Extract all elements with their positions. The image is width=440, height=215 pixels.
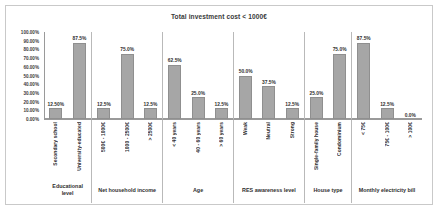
category-slot: > 60 years [210, 120, 233, 177]
bar-slot: 12.5% [92, 32, 115, 119]
bar-value-label: 12.5% [97, 102, 111, 107]
category-slot: 1000 - 2500€ [116, 120, 139, 177]
bar-value-label: 12.5% [214, 102, 228, 107]
bar[interactable] [239, 76, 252, 120]
category-slot: Condominium [328, 120, 351, 177]
chart-title: Total investment cost < 1000€ [6, 13, 432, 20]
group-name-label: Age [193, 187, 203, 194]
bar-slot: 12.5% [375, 32, 398, 119]
bar-slot: 87.5% [352, 32, 375, 119]
bar-value-label: 37.5% [262, 80, 276, 85]
bar-value-label: 87.5% [73, 36, 87, 41]
bar[interactable] [357, 43, 370, 119]
bar-value-label: 12.5% [285, 102, 299, 107]
category-label: < 40 years [172, 122, 177, 147]
bar-value-label: 87.5% [357, 36, 371, 41]
category-slot: 40 - 60 years [186, 120, 209, 177]
bar-slot: 75.0% [328, 32, 351, 119]
bar[interactable] [121, 54, 134, 119]
category-row: Single-family houseCondominium [304, 119, 351, 177]
bar-slot: 50.0% [234, 32, 257, 119]
bar[interactable] [262, 86, 275, 119]
group-name-row: Monthly electricity bill [351, 177, 422, 203]
bar-slot: 25.0% [305, 32, 328, 119]
group-name-row: RES awareness level [233, 177, 304, 203]
category-slot: < 40 years [163, 120, 186, 177]
category-slot: Weak [234, 120, 257, 177]
bar-slot: 75.0% [116, 32, 139, 119]
bar[interactable] [168, 65, 181, 119]
y-axis-tick: 10.00% [23, 108, 39, 113]
y-axis-tick: 50.00% [23, 73, 39, 78]
y-axis-tick: 0.00% [26, 117, 39, 122]
bar[interactable] [286, 108, 299, 119]
group-name-row: Educational level [44, 177, 91, 203]
category-slot: < 75€ [352, 120, 375, 177]
category-row: < 40 years40 - 60 years> 60 years [162, 119, 233, 177]
group-name-label: RES awareness level [242, 187, 296, 194]
y-axis-tick: 60.00% [23, 64, 39, 69]
category-label: 1000 - 2500€ [125, 122, 130, 152]
category-row: 500€ - 1000€1000 - 2500€> 2500€ [91, 119, 162, 177]
category-row: Secondary schoolUniversity-educated [44, 119, 91, 177]
bar[interactable] [215, 108, 228, 119]
bar-slot: 12.50% [44, 32, 68, 119]
category-label: > 2500€ [148, 122, 153, 141]
bar[interactable] [381, 108, 394, 119]
category-slot: Neutral [257, 120, 280, 177]
bar[interactable] [310, 97, 323, 119]
bar[interactable] [144, 108, 157, 119]
category-label: < 75€ [361, 122, 366, 135]
category-slot: > 2500€ [139, 120, 162, 177]
bar-value-label: 0.0% [405, 113, 416, 118]
bar-slot: 12.5% [139, 32, 162, 119]
y-axis-tick: 80.00% [23, 47, 39, 52]
y-axis-tick: 70.00% [23, 56, 39, 61]
category-label: > 100€ [408, 122, 413, 138]
chart-container: Total investment cost < 1000€ 100.00%90.… [5, 5, 433, 205]
bars-row: 12.50%87.5% [44, 32, 91, 119]
category-slot: University-educated [68, 120, 92, 177]
bar-slot: 37.5% [257, 32, 280, 119]
category-slot: 500€ - 1000€ [92, 120, 115, 177]
bar-group: 87.5%12.5%0.0%< 75€75€ - 100€> 100€Month… [351, 32, 422, 207]
bar[interactable] [192, 97, 205, 119]
category-row: < 75€75€ - 100€> 100€ [351, 119, 422, 177]
y-axis-tick: 90.00% [23, 38, 39, 43]
bar-slot: 12.5% [281, 32, 304, 119]
group-name-row: Net household income [91, 177, 162, 203]
category-label: Single-family house [314, 122, 319, 170]
bar-value-label: 62.5% [168, 58, 182, 63]
bar-group: 50.0%37.5%12.5%WeakNeutralStrongRES awar… [233, 32, 304, 207]
y-axis-tick: 30.00% [23, 90, 39, 95]
group-name-label: Educational level [46, 183, 89, 197]
y-axis-tick-labels: 100.00%90.00%80.00%70.00%60.00%50.00%40.… [6, 26, 42, 121]
bar[interactable] [97, 108, 110, 119]
bar-group: 25.0%75.0%Single-family houseCondominium… [304, 32, 351, 207]
bar-value-label: 12.5% [144, 102, 158, 107]
bar-value-label: 25.0% [310, 91, 324, 96]
group-name-row: House type [304, 177, 351, 203]
bar[interactable] [49, 108, 62, 119]
bar-slot: 62.5% [163, 32, 186, 119]
group-name-label: Monthly electricity bill [359, 187, 416, 194]
category-slot: Secondary school [44, 120, 68, 177]
group-name-row: Age [162, 177, 233, 203]
bars-row: 62.5%25.0%12.5% [162, 32, 233, 119]
y-axis-tick: 40.00% [23, 82, 39, 87]
category-slot: 75€ - 100€ [375, 120, 398, 177]
bar-slot: 87.5% [68, 32, 92, 119]
category-slot: Strong [281, 120, 304, 177]
bar-slot: 12.5% [210, 32, 233, 119]
bar-group: 12.50%87.5%Secondary schoolUniversity-ed… [44, 32, 91, 207]
group-name-label: House type [313, 187, 342, 194]
bar-value-label: 75.0% [333, 47, 347, 52]
bar-value-label: 50.0% [239, 69, 253, 74]
category-slot: > 100€ [399, 120, 422, 177]
category-label: Condominium [337, 122, 342, 156]
bar[interactable] [333, 54, 346, 119]
bar-group: 62.5%25.0%12.5%< 40 years40 - 60 years> … [162, 32, 233, 207]
bar-group: 12.5%75.0%12.5%500€ - 1000€1000 - 2500€>… [91, 32, 162, 207]
bar[interactable] [73, 43, 86, 119]
category-label: Strong [290, 122, 295, 138]
